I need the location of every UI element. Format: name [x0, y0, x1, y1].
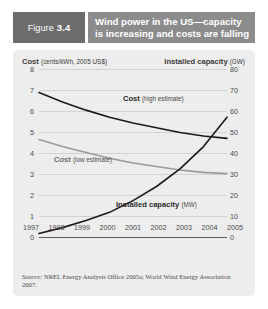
x-axis-tick: 1999 [74, 223, 90, 232]
chart-panel: Cost (cents/kWh, 2005 US$) Installed cap… [13, 50, 255, 296]
source-text: NREL Energy Analysis Office 2005a; World… [22, 273, 231, 289]
series-label-cost-high-paren: (high estimate) [142, 95, 184, 102]
series-label-cost-low-bold: Cost [54, 155, 71, 164]
figure-number-tag: Figure 3.4 [13, 12, 85, 43]
figure-number: 3.4 [57, 22, 71, 33]
series-label-capacity-paren: (MW) [181, 201, 196, 208]
left-axis-tick: 7 [21, 86, 34, 95]
x-axis-tick: 1997 [23, 223, 39, 232]
right-axis-tick: 40 [230, 149, 247, 158]
left-axis-tick: 5 [21, 128, 34, 137]
left-axis-tick: 4 [21, 149, 34, 158]
right-axis-tick: 20 [230, 191, 247, 200]
source-label: Source: [22, 273, 42, 280]
figure-container: Figure 3.4 Wind power in the US—capacity… [0, 0, 268, 309]
figure-title: Wind power in the US—capacity is increas… [88, 12, 255, 43]
source-note: Source: NREL Energy Analysis Office 2005… [22, 273, 246, 290]
series-label-cost-low: Cost (low estimate) [54, 155, 112, 164]
series-label-capacity-bold: Installed capacity [116, 200, 179, 209]
series-label-cost-low-paren: (low estimate) [73, 156, 112, 163]
series-label-capacity: Installed capacity (MW) [116, 200, 197, 209]
figure-title-line-1: Wind power in the US—capacity [95, 16, 250, 27]
x-axis-tick: 2002 [151, 223, 167, 232]
x-axis-tick: 2001 [125, 223, 141, 232]
left-axis-tick: 8 [21, 65, 34, 74]
left-axis-title: Cost (cents/kWh, 2005 US$) [22, 57, 107, 66]
x-axis-labels: 199719981999200020012002200320042005 [31, 223, 235, 235]
axis-titles: Cost (cents/kWh, 2005 US$) Installed cap… [21, 57, 247, 66]
figure-title-line-2: is increasing and costs are falling [95, 28, 250, 39]
left-axis-tick: 3 [21, 170, 34, 179]
left-axis-unit: (cents/kWh, 2005 US$) [41, 58, 107, 65]
right-axis-title-bold: Installed capacity [164, 57, 227, 66]
right-axis-tick: 30 [230, 170, 247, 179]
right-axis-tick: 10 [230, 212, 247, 221]
figure-word: Figure [28, 23, 54, 33]
x-axis-tick: 2003 [176, 223, 192, 232]
right-axis-tick: 50 [230, 128, 247, 137]
figure-header: Figure 3.4 Wind power in the US—capacity… [13, 12, 255, 43]
x-axis-tick: 2000 [100, 223, 116, 232]
x-axis-tick: 2004 [202, 223, 218, 232]
series-label-cost-high-bold: Cost [123, 94, 140, 103]
right-axis-tick: 80 [230, 65, 247, 74]
x-axis-tick: 2005 [227, 223, 243, 232]
right-axis-tick: 70 [230, 86, 247, 95]
right-axis-tick: 60 [230, 107, 247, 116]
left-axis-tick: 1 [21, 212, 34, 221]
left-axis-tick: 2 [21, 191, 34, 200]
x-axis-tick: 1998 [49, 223, 65, 232]
left-axis-tick: 6 [21, 107, 34, 116]
series-label-cost-high: Cost (high estimate) [123, 94, 184, 103]
plot-area: 012345678 01020304050607080 Cost (high e… [21, 69, 247, 237]
